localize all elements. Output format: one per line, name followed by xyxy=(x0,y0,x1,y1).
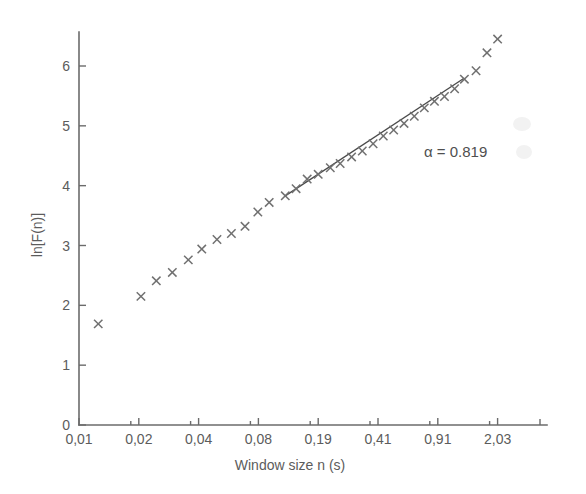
y-tick-label: 1 xyxy=(62,357,70,373)
data-point-marker xyxy=(347,153,355,161)
y-axis-title: ln[F(n)] xyxy=(29,213,45,257)
data-point-marker xyxy=(184,256,192,264)
x-tick-label: 0,08 xyxy=(245,431,272,447)
data-point-marker xyxy=(198,245,206,253)
x-tick-label: 0,19 xyxy=(305,431,332,447)
y-tick-label: 6 xyxy=(62,58,70,74)
x-tick-label: 0,01 xyxy=(65,431,92,447)
data-point-marker xyxy=(450,85,458,93)
x-tick-label: 0,91 xyxy=(424,431,451,447)
data-point-marker xyxy=(213,235,221,243)
x-axis-title: Window size n (s) xyxy=(235,457,345,473)
y-tick-label: 4 xyxy=(62,178,70,194)
y-tick-label: 5 xyxy=(62,118,70,134)
data-point-marker xyxy=(472,67,480,75)
data-point-marker xyxy=(281,192,289,200)
data-point-marker xyxy=(369,140,377,148)
data-point-marker xyxy=(152,277,160,285)
alpha-annotation: α = 0.819 xyxy=(424,143,487,160)
data-point-marker xyxy=(241,222,249,230)
linear-fit-line xyxy=(285,78,464,196)
data-point-marker xyxy=(314,170,322,178)
data-point-markers xyxy=(94,35,502,328)
data-point-marker xyxy=(168,268,176,276)
scan-artifact xyxy=(513,117,532,159)
y-axis-tick-labels: 0123456 xyxy=(62,58,70,433)
chart-figure: 0123456 0,010,020,040,080,190,410,912,03… xyxy=(0,0,586,494)
data-point-marker xyxy=(400,119,408,127)
y-tick-label: 2 xyxy=(62,297,70,313)
data-point-marker xyxy=(389,126,397,134)
data-point-marker xyxy=(410,112,418,120)
data-point-marker xyxy=(292,184,300,192)
x-axis-ticks xyxy=(79,418,540,425)
data-point-marker xyxy=(483,49,491,57)
data-point-marker xyxy=(265,198,273,206)
data-point-marker xyxy=(379,132,387,140)
data-point-marker xyxy=(94,320,102,328)
data-point-marker xyxy=(137,292,145,300)
y-axis-ticks xyxy=(79,66,86,425)
data-point-marker xyxy=(254,208,262,216)
data-point-marker xyxy=(440,92,448,100)
data-point-marker xyxy=(493,35,501,43)
x-tick-label: 0,02 xyxy=(125,431,152,447)
x-tick-label: 0,41 xyxy=(364,431,391,447)
x-tick-label: 0,04 xyxy=(185,431,212,447)
data-point-marker xyxy=(336,159,344,167)
data-point-marker xyxy=(358,147,366,155)
scatter-plot-svg: 0123456 0,010,020,040,080,190,410,912,03… xyxy=(0,0,586,494)
x-axis-tick-labels: 0,010,020,040,080,190,410,912,03 xyxy=(65,431,511,447)
x-tick-label: 2,03 xyxy=(484,431,511,447)
data-point-marker xyxy=(227,229,235,237)
y-tick-label: 3 xyxy=(62,238,70,254)
